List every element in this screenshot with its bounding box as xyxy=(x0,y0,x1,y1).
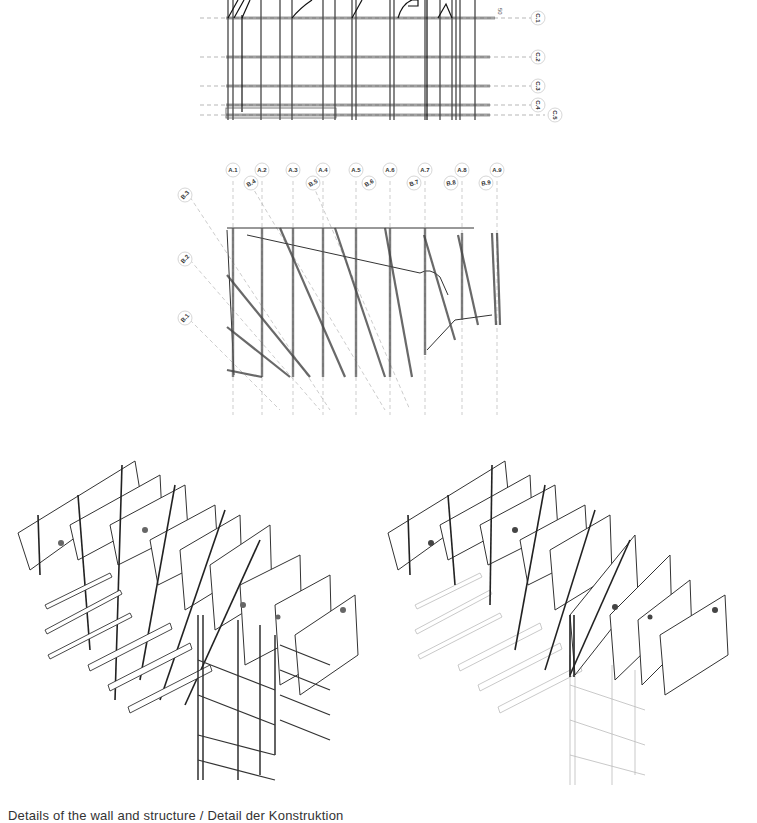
svg-text:C.1: C.1 xyxy=(535,13,541,23)
elevation-grid-bubbles: C.1 C.2 C.3 C.4 C.5 xyxy=(0,0,757,130)
grid-bubble-a1: A.1 xyxy=(226,163,240,177)
grid-bubble-a8: A.8 xyxy=(455,163,469,177)
grid-bubble-a9: A.9 xyxy=(490,163,504,177)
svg-text:A.3: A.3 xyxy=(288,167,298,173)
grid-bubble-c5: C.5 xyxy=(548,108,562,122)
plan-svg: A.1 A.2 A.3 A.4 A.5 A.6 A.7 A.8 A.9 B.4 … xyxy=(0,155,757,425)
grid-bubble-a6: A.6 xyxy=(383,163,397,177)
grid-bubble-a4: A.4 xyxy=(316,163,330,177)
grid-bubble-a7: A.7 xyxy=(418,163,432,177)
grid-bubble-b2: B.2 xyxy=(178,252,192,266)
grid-bubble-c1: C.1 xyxy=(531,11,545,25)
grid-bubble-b6: B.6 xyxy=(362,176,376,190)
plan-grid-b-left-bubbles: B.3 B.2 B.1 xyxy=(178,188,192,325)
grid-bubble-b4: B.4 xyxy=(244,176,258,190)
svg-text:A.1: A.1 xyxy=(228,167,238,173)
grid-bubble-a5: A.5 xyxy=(349,163,363,177)
svg-text:C.4: C.4 xyxy=(535,100,541,110)
svg-text:C.5: C.5 xyxy=(552,110,558,120)
axonometric-full-structure xyxy=(0,455,380,795)
grid-bubble-b3: B.3 xyxy=(178,188,192,202)
svg-text:A.7: A.7 xyxy=(420,167,430,173)
grid-bubble-b7: B.7 xyxy=(407,176,421,190)
svg-text:A.4: A.4 xyxy=(318,167,328,173)
plan-grid-b-top-bubbles: B.4 B.5 B.6 B.7 B.8 B.9 xyxy=(244,176,493,190)
grid-bubble-c3: C.3 xyxy=(531,79,545,93)
figure-caption: Details of the wall and structure / Deta… xyxy=(8,808,344,823)
grid-bubble-c2: C.2 xyxy=(531,50,545,64)
svg-text:C.2: C.2 xyxy=(535,52,541,62)
grid-bubble-b9: B.9 xyxy=(479,176,493,190)
grid-bubble-b5: B.5 xyxy=(306,176,320,190)
plan-grid-a-bubbles: A.1 A.2 A.3 A.4 A.5 A.6 A.7 A.8 A.9 xyxy=(226,163,504,177)
svg-text:A.5: A.5 xyxy=(351,167,361,173)
plan-drawing: A.1 A.2 A.3 A.4 A.5 A.6 A.7 A.8 A.9 B.4 … xyxy=(0,155,757,425)
grid-bubble-b1: B.1 xyxy=(178,311,192,325)
svg-text:A.9: A.9 xyxy=(492,167,502,173)
svg-text:A.8: A.8 xyxy=(457,167,467,173)
grid-bubble-a3: A.3 xyxy=(286,163,300,177)
grid-bubble-b8: B.8 xyxy=(444,176,458,190)
svg-text:A.2: A.2 xyxy=(257,167,267,173)
axonometric-wall-panels xyxy=(380,455,757,795)
svg-text:C.3: C.3 xyxy=(535,81,541,91)
grid-bubble-a2: A.2 xyxy=(255,163,269,177)
grid-bubble-c4: C.4 xyxy=(531,98,545,112)
svg-text:A.6: A.6 xyxy=(385,167,395,173)
